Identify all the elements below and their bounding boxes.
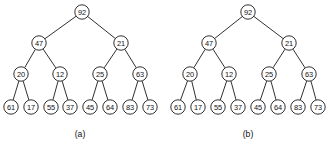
tree-edge [45, 16, 76, 38]
tree-node-label: 83 [294, 103, 302, 112]
tree-node-label: 55 [47, 103, 55, 112]
tree-edge [231, 81, 236, 100]
tree-node-label: 92 [244, 8, 252, 17]
tree-node-label: 37 [66, 103, 74, 112]
tree-node[interactable]: 64 [271, 100, 285, 114]
tree-edge [192, 81, 197, 100]
tree-edge [23, 81, 29, 100]
tree-node-label: 63 [136, 70, 144, 79]
tree-node-label: 64 [106, 103, 114, 112]
tree-edge [273, 49, 285, 68]
tree-node[interactable]: 21 [114, 36, 128, 50]
binary-tree-diagram: 924721201225636117553745648373(a)9247212… [0, 0, 332, 148]
tree-node-label: 37 [234, 103, 242, 112]
tree-node-label: 47 [35, 39, 43, 48]
tree-node-label: 64 [274, 103, 282, 112]
tree-edge [142, 81, 148, 100]
tree-node[interactable]: 92 [75, 5, 89, 19]
tree-node-label: 55 [214, 103, 222, 112]
tree-edge [132, 81, 138, 100]
tree-node-label: 17 [194, 103, 202, 112]
tree-edge [293, 49, 305, 68]
tree-node[interactable]: 25 [93, 67, 107, 81]
tree-node-label: 20 [186, 70, 194, 79]
tree-node-label: 17 [27, 103, 35, 112]
tree-node[interactable]: 20 [183, 67, 197, 81]
tree-edge [92, 81, 98, 100]
tree-node-label: 73 [314, 103, 322, 112]
tree-edge [43, 49, 56, 68]
tree-node[interactable]: 55 [211, 100, 225, 114]
tree-node[interactable]: 64 [103, 100, 117, 114]
tree-node[interactable]: 45 [251, 100, 265, 114]
tree-edge [13, 81, 19, 100]
tree-node-label: 21 [117, 39, 125, 48]
tree-node[interactable]: 47 [32, 36, 46, 50]
tree-node[interactable]: 21 [282, 36, 296, 50]
tree-edge [181, 81, 188, 100]
tree-edge [215, 17, 242, 39]
panel-caption: (b) [243, 129, 254, 139]
tree-node[interactable]: 12 [53, 67, 67, 81]
tree-node-label: 21 [285, 39, 293, 48]
tree-edge [62, 81, 68, 100]
tree-node[interactable]: 63 [133, 67, 147, 81]
tree-node[interactable]: 17 [24, 100, 38, 114]
tree-edge [53, 81, 58, 100]
tree-node[interactable]: 73 [311, 100, 325, 114]
tree-edge [102, 81, 108, 100]
tree-node-label: 45 [254, 103, 262, 112]
tree-edge [271, 81, 276, 100]
tree-node[interactable]: 61 [171, 100, 185, 114]
tree-node-label: 83 [126, 103, 134, 112]
panel-caption: (a) [75, 129, 86, 139]
tree-edge [254, 16, 283, 38]
tree-edge [300, 81, 306, 100]
tree-node-label: 20 [17, 70, 25, 79]
tree-node[interactable]: 83 [291, 100, 305, 114]
tree-edge [88, 17, 115, 39]
tree-node-label: 47 [205, 39, 213, 48]
tree-edge [125, 49, 136, 67]
tree-edge [220, 81, 226, 100]
tree-edge [311, 81, 316, 100]
figure-canvas: 924721201225636117553745648373(a)9247212… [0, 0, 332, 148]
tree-node-label: 45 [86, 103, 94, 112]
tree-node-label: 12 [225, 70, 233, 79]
tree-edge [104, 49, 117, 68]
tree-node-label: 25 [96, 70, 104, 79]
tree-node[interactable]: 92 [241, 5, 255, 19]
tree-edge [260, 81, 266, 100]
tree-node[interactable]: 47 [202, 36, 216, 50]
tree-node[interactable]: 20 [14, 67, 28, 81]
tree-node-label: 61 [174, 103, 182, 112]
tree-node[interactable]: 45 [83, 100, 97, 114]
tree-node[interactable]: 63 [302, 67, 316, 81]
tree-edge [213, 49, 225, 68]
tree-edge [194, 49, 205, 67]
tree-panel: 924721201225636117553745648373(a) [4, 5, 157, 139]
tree-node-label: 61 [7, 103, 15, 112]
tree-node[interactable]: 25 [262, 67, 276, 81]
tree-node-label: 73 [146, 103, 154, 112]
tree-node-label: 92 [78, 8, 86, 17]
tree-node[interactable]: 61 [4, 100, 18, 114]
tree-node[interactable]: 17 [191, 100, 205, 114]
tree-node[interactable]: 83 [123, 100, 137, 114]
tree-panel: 924721201225636117553745648373(b) [171, 5, 325, 139]
tree-node-label: 63 [305, 70, 313, 79]
tree-node[interactable]: 37 [231, 100, 245, 114]
tree-node-label: 12 [56, 70, 64, 79]
tree-node[interactable]: 55 [44, 100, 58, 114]
tree-edge [25, 49, 36, 67]
tree-node[interactable]: 12 [222, 67, 236, 81]
tree-node[interactable]: 37 [63, 100, 77, 114]
tree-node[interactable]: 73 [143, 100, 157, 114]
tree-node-label: 25 [265, 70, 273, 79]
